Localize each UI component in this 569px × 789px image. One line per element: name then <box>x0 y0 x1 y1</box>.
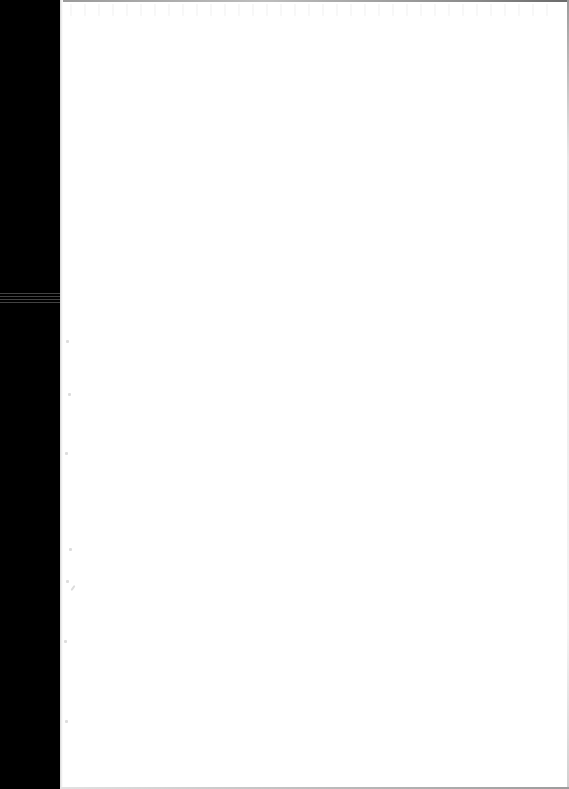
scanned-page-image <box>0 0 569 789</box>
page-top-speckle-noise <box>70 4 550 16</box>
scan-noise-speck <box>64 640 67 643</box>
page-top-edge-shadow <box>60 0 569 2</box>
scan-noise-speck <box>65 452 68 455</box>
scanner-black-border <box>0 0 60 789</box>
scan-noise-speck <box>70 585 75 591</box>
page-left-edge-shadow <box>60 0 63 789</box>
scan-streak-artifacts <box>0 293 62 305</box>
scan-noise-speck <box>66 580 69 583</box>
scan-noise-speck <box>66 340 69 343</box>
scan-noise-speck <box>69 548 72 551</box>
scan-noise-speck <box>65 720 68 723</box>
blank-page <box>60 0 569 789</box>
scan-noise-speck <box>68 393 71 396</box>
